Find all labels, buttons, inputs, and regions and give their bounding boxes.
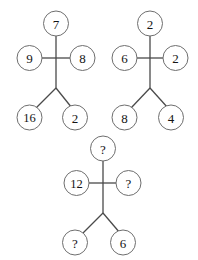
- diagram-3-node-right: ?: [116, 171, 141, 196]
- node-label: 2: [72, 111, 79, 126]
- node-label: 8: [121, 111, 128, 126]
- node-label: 7: [53, 17, 60, 32]
- node-label: ?: [100, 142, 106, 157]
- diagram-1-node-top: 7: [44, 11, 69, 36]
- diagram-3-node-top: ?: [91, 136, 116, 161]
- diagram-1-node-left: 9: [17, 46, 42, 71]
- diagram-1-node-right: 8: [70, 46, 95, 71]
- diagram-1: 7 9 8 16 2: [17, 11, 95, 130]
- diagram-1-node-bottom-right: 2: [63, 105, 88, 130]
- diagram-3: ? 12 ? ? 6: [63, 136, 142, 255]
- node-label: 6: [121, 51, 128, 66]
- diagram-3-node-left: 12: [64, 171, 89, 196]
- connector-fork-right-1: [56, 88, 72, 108]
- node-label: 9: [26, 51, 33, 66]
- diagram-2-node-bottom-left: 8: [112, 105, 137, 130]
- node-label: 8: [79, 51, 86, 66]
- connector-fork-left-3: [83, 213, 103, 233]
- connector-fork-right-2: [150, 88, 168, 108]
- node-label: 2: [147, 17, 154, 32]
- diagram-2-node-bottom-right: 4: [159, 105, 184, 130]
- connector-fork-right-3: [103, 213, 120, 233]
- node-label: 6: [120, 236, 127, 251]
- node-label: 12: [70, 177, 83, 191]
- diagram-1-node-bottom-left: 16: [17, 105, 42, 130]
- node-label: ?: [72, 236, 78, 251]
- node-label: 2: [172, 51, 179, 66]
- diagram-2-node-left: 6: [112, 46, 137, 71]
- connector-fork-left-2: [131, 88, 150, 108]
- connector-fork-left-1: [36, 88, 56, 108]
- diagram-2-node-right: 2: [163, 46, 188, 71]
- diagram-2-node-top: 2: [138, 11, 163, 36]
- node-label: 16: [23, 111, 36, 125]
- node-label: ?: [126, 176, 132, 191]
- puzzle-figure: 7 9 8 16 2 2: [0, 0, 198, 260]
- node-label: 4: [168, 111, 175, 126]
- diagram-2: 2 6 2 8 4: [112, 11, 188, 130]
- diagram-3-node-bottom-left: ?: [63, 230, 88, 255]
- diagram-3-node-bottom-right: 6: [111, 230, 136, 255]
